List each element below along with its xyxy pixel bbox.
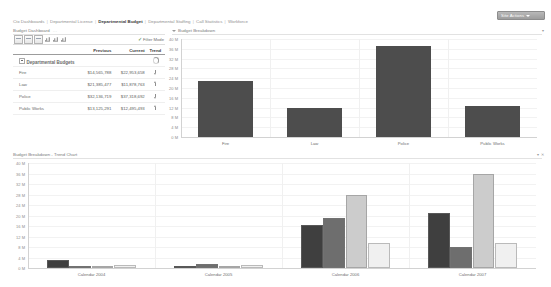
category-separator: [409, 163, 410, 268]
column-header-previous[interactable]: Previous: [80, 46, 113, 55]
breadcrumb-item-ctx-dashboards[interactable]: Ctx Dashboards: [13, 19, 44, 24]
dashboard-page: Site Actions Ctx Dashboards | Department…: [0, 0, 551, 287]
group-row-label-cell[interactable]: Departmental Budgets: [13, 55, 80, 67]
budget-dashboard-title: Budget Dashboard: [13, 28, 50, 33]
breadcrumb-separator: |: [47, 19, 48, 24]
bar[interactable]: [465, 106, 520, 137]
bar[interactable]: [301, 225, 323, 268]
export-icon[interactable]: [24, 35, 33, 44]
x-axis-tick-label: Calendar 2006: [282, 272, 409, 277]
table-header-row: Previous Current Trend: [13, 46, 165, 55]
bar[interactable]: [376, 46, 431, 137]
y-axis-tick-label: 24 M: [13, 203, 25, 208]
budget-breakdown-header: Budget Breakdown: [172, 28, 215, 33]
y-axis-tick-label: 32 M: [13, 182, 25, 187]
row-trend-police: [147, 91, 165, 103]
budget-breakdown-chart: 0 M4 M8 M12 M16 M20 M24 M28 M32 M36 M40 …: [168, 36, 543, 148]
y-axis: [28, 163, 29, 268]
breadcrumb-item-departmental-staffing[interactable]: Departmental Staffing: [148, 19, 190, 24]
plot-area: [181, 39, 537, 137]
y-axis-tick-label: 0 M: [13, 266, 25, 271]
row-trend-public-works: [147, 102, 165, 114]
column-header-name[interactable]: [13, 46, 80, 55]
bar[interactable]: [428, 213, 450, 268]
budget-trend-header: Budget Breakdown - Trend Chart: [13, 152, 77, 157]
save-icon[interactable]: [14, 35, 23, 44]
category-separator: [359, 39, 360, 137]
row-trend-law: [147, 79, 165, 91]
y-axis-tick-label: 20 M: [168, 86, 178, 91]
y-axis-tick-label: 8 M: [168, 115, 178, 120]
breadcrumb-separator: |: [145, 19, 146, 24]
breadcrumb-separator: |: [95, 19, 96, 24]
breakdown-panel-controls[interactable]: ▾: [542, 28, 544, 33]
y-axis-tick-label: 16 M: [168, 95, 178, 100]
breadcrumb-item-workforce[interactable]: Workforce: [228, 19, 248, 24]
y-axis-tick-label: 12 M: [13, 234, 25, 239]
x-axis-tick-label: Law: [270, 141, 359, 146]
plot-area: [28, 163, 536, 268]
panel-collapse-icon[interactable]: ▾: [542, 28, 544, 33]
bar[interactable]: [473, 174, 495, 269]
print-icon[interactable]: [34, 35, 43, 44]
panel-collapse-icon[interactable]: ▾: [537, 152, 539, 157]
bar[interactable]: [323, 218, 345, 268]
arrow-up-icon: [153, 105, 157, 111]
group-row-trend: [147, 55, 165, 67]
y-axis-tick-label: 24 M: [168, 76, 178, 81]
budget-dashboard-header: Budget Dashboard ...: [13, 28, 58, 33]
table-toolbar: ✓ Filter Mode: [13, 35, 165, 45]
y-axis-tick-label: 36 M: [13, 171, 25, 176]
table-row[interactable]: Fire $14,565,788 $22,953,658: [13, 67, 165, 79]
row-name-law: Law: [13, 79, 80, 91]
breadcrumb-separator: |: [193, 19, 194, 24]
edit-icon[interactable]: [52, 36, 59, 43]
y-axis-tick-label: 4 M: [168, 125, 178, 130]
y-axis-tick-label: 8 M: [13, 245, 25, 250]
row-previous-fire: $14,565,788: [80, 67, 113, 79]
chevron-down-icon: [526, 15, 530, 17]
column-header-current[interactable]: Current: [113, 46, 146, 55]
category-separator: [155, 163, 156, 268]
breadcrumb-item-departmental-budget[interactable]: Departmental Budget: [98, 19, 142, 24]
bar[interactable]: [198, 81, 253, 137]
category-separator: [282, 163, 283, 268]
table-row[interactable]: Public Works $13,125,291 $12,495,493: [13, 102, 165, 114]
bar[interactable]: [346, 195, 368, 269]
x-axis: [28, 268, 536, 269]
breadcrumb-item-call-statistics[interactable]: Call Statistics: [196, 19, 222, 24]
group-collapse-icon[interactable]: [19, 58, 25, 64]
row-previous-public-works: $13,125,291: [80, 102, 113, 114]
table-row[interactable]: Police $32,136,719 $37,318,692: [13, 91, 165, 103]
breadcrumb-item-departmental-license[interactable]: Departmental License: [50, 19, 93, 24]
bar[interactable]: [368, 243, 390, 268]
row-current-law: $11,878,763: [113, 79, 146, 91]
y-axis-tick-label: 40 M: [13, 161, 25, 166]
panel-close-icon[interactable]: ✕: [541, 152, 544, 157]
budget-dashboard-menu[interactable]: ...: [53, 28, 58, 33]
row-current-fire: $22,953,658: [113, 67, 146, 79]
table-row[interactable]: Law $21,385,477 $11,878,763: [13, 79, 165, 91]
budget-table-module: ✓ Filter Mode Previous Current Trend De: [13, 35, 165, 115]
breakdown-header-rule: [172, 34, 542, 35]
y-axis-tick-label: 28 M: [168, 66, 178, 71]
column-header-trend[interactable]: Trend: [147, 46, 165, 55]
budget-table: Previous Current Trend Departmental Budg…: [13, 46, 165, 115]
arrow-down-icon: [153, 93, 157, 99]
trend-panel-controls[interactable]: ▾ ✕: [537, 152, 544, 157]
x-axis-tick-label: Calendar 2005: [155, 272, 282, 277]
chart-icon[interactable]: [60, 36, 67, 43]
bar[interactable]: [47, 260, 69, 268]
bar[interactable]: [287, 108, 342, 137]
chevron-down-icon[interactable]: [172, 30, 176, 32]
refresh-icon[interactable]: [44, 36, 51, 43]
y-axis-tick-label: 36 M: [168, 46, 178, 51]
filter-mode-toggle[interactable]: ✓ Filter Mode: [138, 37, 164, 42]
budget-breakdown-title: Budget Breakdown: [178, 28, 215, 33]
site-actions-button[interactable]: Site Actions: [497, 11, 545, 20]
group-row-current: [113, 55, 146, 67]
bar[interactable]: [450, 247, 472, 268]
table-group-row[interactable]: Departmental Budgets: [13, 55, 165, 67]
bar[interactable]: [495, 243, 517, 268]
group-row-label: Departmental Budgets: [27, 59, 75, 64]
